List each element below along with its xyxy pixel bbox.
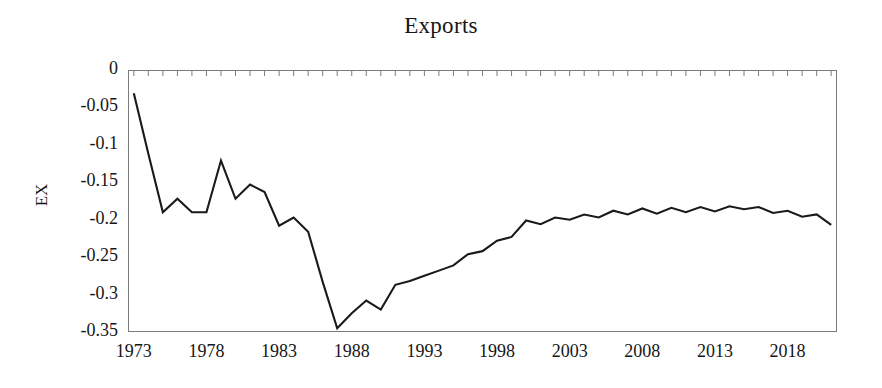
chart-title: Exports: [0, 13, 882, 39]
y-tick-label: -0.1: [0, 133, 118, 154]
y-tick-label: -0.35: [0, 320, 118, 341]
series-polyline: [134, 93, 831, 328]
x-tick-label: 2018: [743, 341, 833, 362]
y-tick-label: -0.2: [0, 208, 118, 229]
y-tick-label: -0.05: [0, 95, 118, 116]
chart-figure: Exports EX 0-0.05-0.1-0.15-0.2-0.25-0.3-…: [0, 0, 882, 388]
y-tick-label: -0.15: [0, 170, 118, 191]
y-axis-tick-labels: 0-0.05-0.1-0.15-0.2-0.25-0.3-0.35: [0, 0, 118, 388]
x-axis-tick-labels: 1973197819831988199319982003200820132018: [0, 341, 882, 371]
data-series-line: [128, 70, 837, 332]
y-tick-label: 0: [0, 58, 118, 79]
y-tick-label: -0.25: [0, 245, 118, 266]
y-tick-label: -0.3: [0, 283, 118, 304]
